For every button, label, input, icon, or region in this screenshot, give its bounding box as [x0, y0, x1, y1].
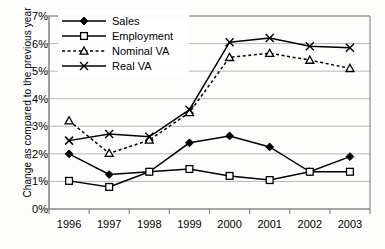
data-point-marker-square [66, 177, 73, 184]
data-point-marker-square [81, 32, 88, 39]
data-point-marker-square [347, 168, 354, 175]
data-point-marker-diamond [65, 150, 73, 158]
data-point-marker-square [266, 177, 273, 184]
legend-swatch-cross-x [60, 59, 108, 73]
data-point-marker-square [146, 168, 153, 175]
data-point-marker-diamond [80, 17, 88, 25]
data-point-marker-triangle [306, 56, 314, 63]
data-point-marker-triangle [65, 117, 73, 124]
legend-swatch-open-square [60, 29, 108, 43]
legend-item-employment[interactable]: Employment [58, 28, 189, 43]
legend-swatch-filled-diamond [60, 14, 108, 28]
data-point-marker-diamond [266, 143, 274, 151]
data-point-marker-triangle [346, 64, 354, 71]
legend-label: Nominal VA [108, 45, 169, 57]
legend: SalesEmploymentNominal VAReal VA [58, 11, 189, 75]
legend-label: Employment [108, 30, 173, 42]
data-point-marker-diamond [226, 132, 234, 140]
legend-item-real-va[interactable]: Real VA [58, 58, 189, 73]
chart-container: Change as compared to the previous year … [0, 0, 385, 249]
data-point-marker-square [106, 184, 113, 191]
legend-label: Sales [108, 15, 140, 27]
data-point-marker-square [186, 166, 193, 173]
data-point-marker-square [306, 168, 313, 175]
legend-swatch-open-triangle [60, 44, 108, 58]
legend-item-nominal-va[interactable]: Nominal VA [58, 43, 189, 58]
data-point-marker-square [226, 173, 233, 180]
legend-item-sales[interactable]: Sales [58, 13, 189, 28]
legend-label: Real VA [108, 60, 152, 72]
data-point-marker-diamond [105, 171, 113, 179]
